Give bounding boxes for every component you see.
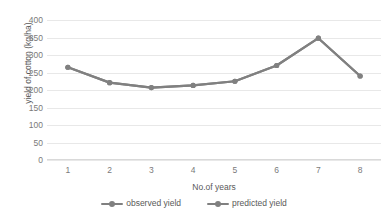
series-layer bbox=[47, 20, 381, 160]
data-point-marker bbox=[149, 85, 154, 90]
y-axis-tick-label: 300 bbox=[3, 51, 43, 60]
series-line bbox=[68, 38, 360, 87]
y-axis-tick-label: 350 bbox=[3, 33, 43, 42]
x-axis-tick-label: 5 bbox=[220, 165, 250, 175]
cotton-yield-line-chart: yield of cotton (kg/ha) 4003503002502001… bbox=[0, 0, 388, 224]
x-axis-title: No.of years bbox=[47, 182, 381, 192]
series-line bbox=[68, 38, 360, 87]
plot-area bbox=[47, 20, 381, 160]
x-axis-tick-label: 7 bbox=[303, 165, 333, 175]
data-point-marker bbox=[274, 63, 279, 68]
chart-legend: observed yieldpredicted yield bbox=[0, 199, 388, 208]
y-axis-tick-label: 200 bbox=[3, 86, 43, 95]
x-axis-tick-label: 6 bbox=[262, 165, 292, 175]
data-point-marker bbox=[65, 65, 70, 70]
data-point-marker bbox=[191, 83, 196, 88]
y-axis-tick-label: 0 bbox=[3, 156, 43, 165]
x-axis-tick-label: 2 bbox=[95, 165, 125, 175]
data-point-marker bbox=[316, 36, 321, 41]
legend-label: observed yield bbox=[126, 199, 181, 208]
y-axis-tick-label: 150 bbox=[3, 103, 43, 112]
data-point-marker bbox=[358, 73, 363, 78]
y-axis-tick-label: 100 bbox=[3, 121, 43, 130]
x-axis-tick-label: 8 bbox=[345, 165, 375, 175]
legend-marker-icon bbox=[207, 200, 229, 208]
x-axis-tick-label: 4 bbox=[178, 165, 208, 175]
legend-label: predicted yield bbox=[232, 199, 287, 208]
y-axis-tick-labels: 400350300250200150100500 bbox=[0, 20, 43, 160]
y-axis-tick-label: 250 bbox=[3, 68, 43, 77]
x-axis-tick-labels: 12345678 bbox=[47, 165, 381, 179]
legend-item[interactable]: predicted yield bbox=[207, 199, 287, 208]
legend-marker-icon bbox=[101, 200, 123, 208]
x-axis-tick-label: 1 bbox=[53, 165, 83, 175]
gridline bbox=[47, 160, 381, 161]
y-axis-tick-label: 400 bbox=[3, 16, 43, 25]
legend-item[interactable]: observed yield bbox=[101, 199, 181, 208]
data-point-marker bbox=[107, 80, 112, 85]
y-axis-tick-label: 50 bbox=[3, 138, 43, 147]
data-point-marker bbox=[232, 79, 237, 84]
x-axis-tick-label: 3 bbox=[136, 165, 166, 175]
